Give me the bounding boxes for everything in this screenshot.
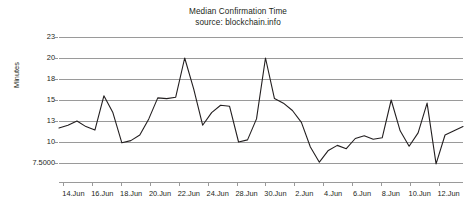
plot-area: 2320181513107.5000 (59, 37, 463, 163)
y-tick-mark (55, 121, 58, 122)
x-tick-mark (323, 182, 324, 186)
y-tick-mark (55, 58, 58, 59)
y-axis-title: Minutes (12, 62, 21, 88)
x-tick-label: 6.Jun (353, 189, 371, 198)
x-tick-label: 20.Jun (149, 189, 171, 198)
y-tick-mark (55, 100, 58, 101)
y-tick-label: 18 (47, 74, 55, 83)
x-tick-mark (208, 182, 209, 186)
y-tick-label: 20 (47, 53, 55, 62)
x-tick-label: 4.Jun (324, 189, 342, 198)
y-tick-label: 7.5000 (32, 158, 55, 167)
x-tick-label: 28.Jun (235, 189, 257, 198)
gridline: 7.5000 (59, 163, 463, 164)
y-tick-mark (55, 79, 58, 80)
chart-subtitle: source: blockchain.info (0, 17, 476, 28)
x-tick-label: 8.Jun (382, 189, 400, 198)
x-tick-label: 16.Jun (91, 189, 113, 198)
chart-title-block: Median Confirmation Time source: blockch… (0, 6, 476, 28)
x-tick-mark (381, 182, 382, 186)
y-tick-label: 13 (47, 116, 55, 125)
chart-title: Median Confirmation Time (0, 6, 476, 17)
x-tick-label: 10.Jun (409, 189, 431, 198)
y-tick-label: 23 (47, 32, 55, 41)
chart-container: Median Confirmation Time source: blockch… (0, 0, 476, 210)
series-polyline (59, 58, 463, 164)
x-tick-mark (265, 182, 266, 186)
x-tick-label: 18.Jun (120, 189, 142, 198)
x-tick-label: 2.Jun (295, 189, 313, 198)
y-tick-mark (55, 163, 58, 164)
y-tick-mark (55, 142, 58, 143)
x-tick-mark (121, 182, 122, 186)
x-tick-mark (294, 182, 295, 186)
x-tick-mark (352, 182, 353, 186)
x-tick-mark (92, 182, 93, 186)
x-tick-label: 12.Jun (437, 189, 459, 198)
y-tick-label: 10 (47, 137, 55, 146)
x-axis-line (59, 182, 463, 183)
y-tick-mark (55, 37, 58, 38)
x-tick-mark (63, 182, 64, 186)
x-tick-label: 30.Jun (264, 189, 286, 198)
x-tick-label: 24.Jun (207, 189, 229, 198)
x-tick-mark (410, 182, 411, 186)
x-tick-mark (150, 182, 151, 186)
x-tick-mark (179, 182, 180, 186)
x-tick-label: 14.Jun (62, 189, 84, 198)
series-line-chart (59, 37, 463, 163)
x-tick-mark (439, 182, 440, 186)
x-tick-label: 22.Jun (178, 189, 200, 198)
x-tick-mark (237, 182, 238, 186)
y-tick-label: 15 (47, 95, 55, 104)
